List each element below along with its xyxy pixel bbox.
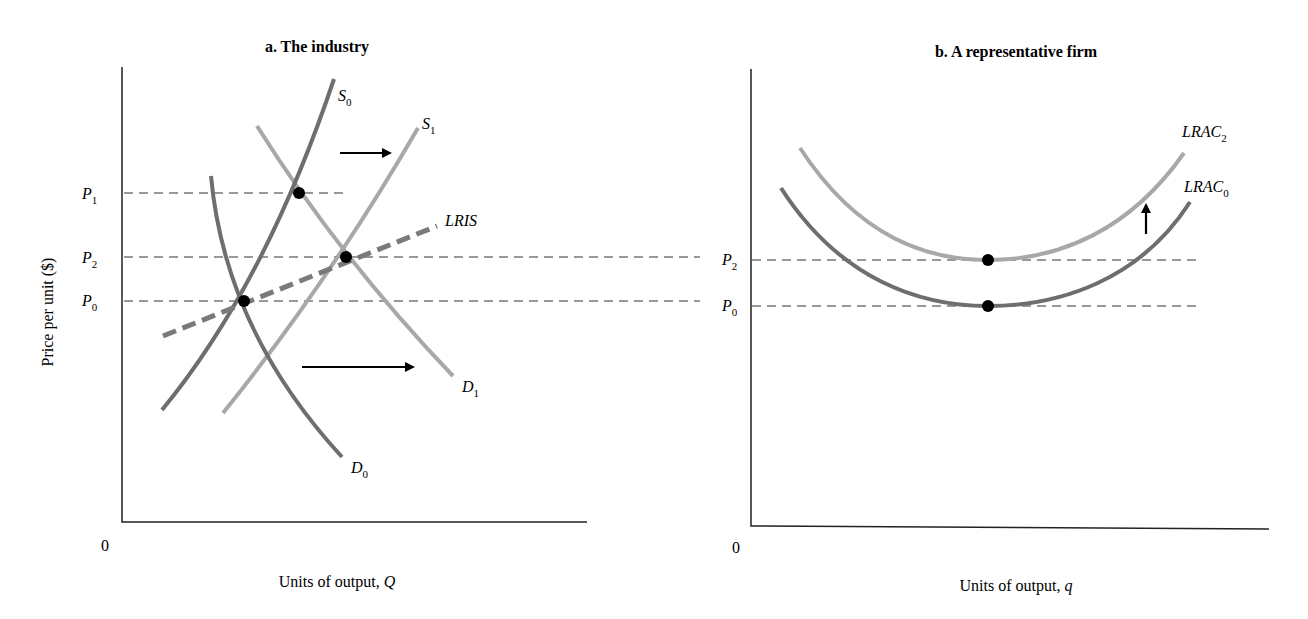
supply-curve-s0 [162,79,334,410]
panel-a-axes [122,67,587,522]
panel-b-title: b. A representative firm [935,43,1098,61]
panel-a-x-axis-label: Units of output, Q [279,573,396,591]
lrac2-minimum-point [982,254,994,266]
lrac0-minimum-point [982,300,994,312]
panel-b-x-axis-label: Units of output, q [960,577,1073,595]
demand-curve-d0 [211,176,342,457]
lris-label: LRIS [444,212,477,229]
equilibrium-point-p2 [340,251,352,263]
figure: a. The industry 0 Price per unit ($) Uni… [0,0,1308,619]
p1-label: P1 [81,185,97,206]
p0-label: P0 [81,292,98,313]
d0-label: D0 [350,459,369,480]
equilibrium-point-p1 [293,187,305,199]
demand-curve-d1 [257,126,453,376]
d1-label: D1 [461,378,479,399]
s0-label: S0 [338,87,352,108]
firm-p2-label: P2 [721,251,737,272]
panel-a-origin: 0 [101,537,109,554]
lrac2-curve [800,148,1184,260]
y-axis-label: Price per unit ($) [39,258,57,367]
panel-industry: a. The industry 0 Price per unit ($) Uni… [39,38,700,591]
panel-a-title: a. The industry [265,38,369,56]
equilibrium-point-p0 [238,295,250,307]
lrac0-curve [781,188,1190,306]
panel-b-origin: 0 [732,539,740,556]
p2-label: P2 [81,249,97,270]
panel-firm: b. A representative firm 0 Units of outp… [721,43,1269,595]
s1-label: S1 [422,115,436,136]
lris-curve [163,226,437,336]
lrac0-label: LRAC0 [1183,178,1229,199]
lrac2-label: LRAC2 [1181,123,1227,144]
firm-p0-label: P0 [721,297,738,318]
